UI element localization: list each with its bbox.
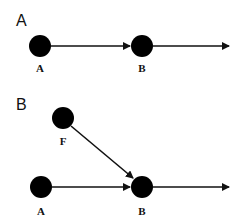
panel-b: B F A B — [16, 96, 229, 217]
node-f — [52, 107, 74, 129]
panel-a-label: A — [16, 12, 27, 29]
node-a-label: A — [36, 62, 44, 74]
node-a-label: A — [37, 205, 45, 217]
node-b — [131, 176, 153, 198]
diagram-canvas: A A B B F A B — [0, 0, 245, 223]
node-f-label: F — [60, 135, 67, 147]
node-a — [30, 176, 52, 198]
node-a — [29, 35, 51, 57]
panel-a: A A B — [16, 12, 229, 74]
node-b-label: B — [138, 62, 146, 74]
panel-b-label: B — [16, 96, 27, 113]
node-b — [131, 35, 153, 57]
edge-f-to-b — [71, 126, 133, 178]
node-b-label: B — [138, 205, 146, 217]
